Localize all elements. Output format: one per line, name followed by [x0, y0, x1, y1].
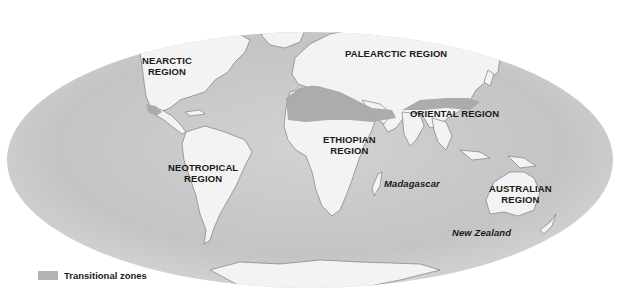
label-palearctic-region: PALEARCTIC REGION — [345, 48, 447, 59]
legend-swatch-transitional — [38, 271, 58, 280]
legend-label-transitional: Transitional zones — [64, 270, 147, 281]
label-ethiopian-region: ETHIOPIANREGION — [323, 134, 376, 156]
label-madagascar: Madagascar — [384, 178, 440, 189]
world-map — [0, 0, 621, 304]
label-new-zealand: New Zealand — [452, 227, 511, 238]
label-australian-region: AUSTRALIANREGION — [489, 183, 552, 205]
label-oriental-region: ORIENTAL REGION — [410, 108, 499, 119]
label-neotropical-region: NEOTROPICALREGION — [168, 162, 238, 184]
label-nearctic-region: NEARCTICREGION — [142, 55, 192, 77]
land-antarctica — [210, 260, 440, 290]
legend: Transitional zones — [38, 270, 147, 281]
